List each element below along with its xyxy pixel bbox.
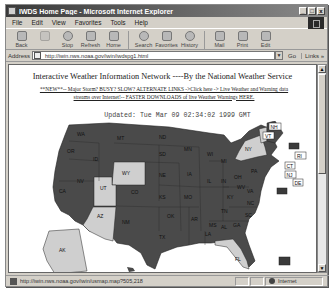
svg-text:CT: CT xyxy=(287,163,294,169)
svg-text:WI: WI xyxy=(207,151,213,157)
svg-text:NC: NC xyxy=(247,200,255,206)
svg-text:MI: MI xyxy=(221,158,227,164)
svg-text:LA: LA xyxy=(205,231,212,237)
internet-globe-icon xyxy=(269,278,275,284)
links-button[interactable]: Links » xyxy=(301,53,324,59)
svg-text:KS: KS xyxy=(159,194,166,200)
svg-text:FL: FL xyxy=(235,256,241,262)
mail-button[interactable]: Mail xyxy=(208,29,231,48)
svg-text:NV: NV xyxy=(77,178,85,184)
svg-text:MT: MT xyxy=(117,135,124,141)
svg-text:AR: AR xyxy=(191,216,198,222)
scroll-down-button[interactable]: ▼ xyxy=(318,264,326,272)
search-button[interactable]: Search xyxy=(132,29,155,48)
svg-text:OK: OK xyxy=(167,213,175,219)
edit-button[interactable]: Edit xyxy=(254,29,277,48)
browser-window: IWDS Home Page - Microsoft Internet Expl… xyxy=(5,4,328,287)
svg-text:WY: WY xyxy=(122,170,131,176)
svg-text:IL: IL xyxy=(207,178,211,184)
svg-text:IA: IA xyxy=(187,171,192,177)
svg-text:NH: NH xyxy=(271,124,279,130)
menu-favorites[interactable]: Favorites xyxy=(75,19,102,26)
home-button[interactable]: Home xyxy=(102,29,125,48)
menu-help[interactable]: Help xyxy=(135,19,148,26)
us-weather-map[interactable]: WA OR MT ID WY UT AZ NV CA CO NM ND SD N… xyxy=(9,121,317,273)
status-bar: http://iwin.nws.noaa.gov/iwin/usmap.map?… xyxy=(6,275,329,286)
updated-timestamp: Updated: Tue Mar 09 02:34:02 1999 GMT xyxy=(9,112,316,119)
svg-text:WV: WV xyxy=(237,184,246,190)
svg-text:CA: CA xyxy=(59,188,67,194)
stop-button[interactable]: Stop xyxy=(56,29,79,48)
stop-icon xyxy=(63,31,73,41)
menu-file[interactable]: File xyxy=(12,19,22,26)
svg-text:RI: RI xyxy=(297,153,302,159)
svg-text:NJ: NJ xyxy=(287,172,294,178)
go-button[interactable]: Go xyxy=(288,53,296,59)
title-bar: IWDS Home Page - Microsoft Internet Expl… xyxy=(6,5,327,17)
address-input[interactable]: http://iwin.nws.noaa.gov/iwin/iwdspg1.ht… xyxy=(32,51,275,60)
svg-text:AK: AK xyxy=(59,247,66,253)
status-pane xyxy=(250,277,264,286)
history-icon xyxy=(185,31,195,41)
edit-icon xyxy=(261,31,271,41)
scroll-up-button[interactable]: ▲ xyxy=(318,65,326,73)
minimize-button[interactable]: _ xyxy=(299,7,307,15)
print-button[interactable]: Print xyxy=(231,29,254,48)
svg-text:VT: VT xyxy=(265,133,271,139)
scroll-thumb[interactable] xyxy=(318,74,326,174)
svg-text:PA: PA xyxy=(251,168,258,174)
forward-button[interactable] xyxy=(33,29,56,42)
alternate-links-link[interactable]: **NEW**-- Major Storm? BUSY? SLOW? ALTER… xyxy=(40,86,288,92)
svg-text:AZ: AZ xyxy=(97,213,103,219)
svg-text:DE: DE xyxy=(295,180,303,186)
search-icon xyxy=(139,31,149,41)
svg-text:KY: KY xyxy=(227,194,234,200)
svg-text:IN: IN xyxy=(221,178,226,184)
faster-downloads-link[interactable]: streams over Internet!-- FASTER DOWNLOAD… xyxy=(74,94,255,100)
svg-text:MN: MN xyxy=(184,146,192,152)
menu-view[interactable]: View xyxy=(52,19,66,26)
svg-text:WA: WA xyxy=(77,131,86,137)
state-hi[interactable] xyxy=(127,267,135,272)
address-dropdown-button[interactable]: ▼ xyxy=(275,51,283,60)
svg-text:NM: NM xyxy=(122,219,130,225)
print-icon xyxy=(238,31,248,41)
svg-text:SD: SD xyxy=(159,151,166,157)
toolbar-separator xyxy=(128,31,129,49)
forward-arrow-icon xyxy=(40,31,50,41)
svg-text:TN: TN xyxy=(221,208,228,214)
address-label: Address xyxy=(8,53,30,59)
svg-text:OH: OH xyxy=(234,174,242,180)
menu-bar: File Edit View Favorites Tools Help xyxy=(6,17,327,28)
menu-tools[interactable]: Tools xyxy=(110,19,125,26)
page-status-icon xyxy=(10,278,17,285)
back-button[interactable]: Back xyxy=(10,29,33,48)
close-button[interactable]: x xyxy=(317,7,325,15)
refresh-button[interactable]: Refresh xyxy=(79,29,102,48)
page-icon xyxy=(34,52,41,59)
status-url: http://iwin.nws.noaa.gov/iwin/usmap.map?… xyxy=(20,278,235,284)
svg-text:ND: ND xyxy=(159,134,167,140)
favorites-button[interactable]: Favorites xyxy=(155,29,178,48)
svg-text:SC: SC xyxy=(245,212,252,218)
svg-text:GA: GA xyxy=(233,222,241,228)
menu-edit[interactable]: Edit xyxy=(31,19,42,26)
toolbar-separator xyxy=(204,31,205,49)
status-pane xyxy=(235,277,249,286)
svg-text:AL: AL xyxy=(221,224,227,230)
svg-text:MS: MS xyxy=(209,222,217,228)
window-title: IWDS Home Page - Microsoft Internet Expl… xyxy=(19,8,299,15)
svg-text:NE: NE xyxy=(159,172,167,178)
history-button[interactable]: History xyxy=(178,29,201,48)
address-bar: Address http://iwin.nws.noaa.gov/iwin/iw… xyxy=(6,50,327,62)
svg-text:TX: TX xyxy=(159,234,166,240)
svg-text:NY: NY xyxy=(245,146,253,152)
security-zone: Internet xyxy=(265,277,323,286)
legend-box xyxy=(279,257,290,265)
page-headline: Interactive Weather Information Network … xyxy=(9,72,316,81)
refresh-icon xyxy=(86,31,96,41)
back-arrow-icon xyxy=(17,31,27,41)
svg-text:UT: UT xyxy=(100,185,107,191)
vertical-scrollbar[interactable]: ▲ ▼ xyxy=(317,64,327,273)
maximize-button[interactable]: □ xyxy=(308,7,316,15)
